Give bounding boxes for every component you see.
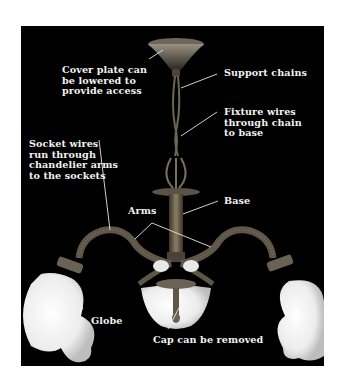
arms-label: Arms [128, 206, 156, 217]
support-chains-label: Support chains [224, 68, 307, 79]
support-chain-icon [166, 76, 185, 188]
cap-icon [172, 288, 180, 323]
right-globe-icon [266, 254, 324, 361]
cover-plate-label: Cover plate can be lowered to provide ac… [62, 65, 147, 97]
left-globe-icon [23, 256, 94, 362]
globe-label: Globe [91, 316, 123, 327]
socket-wires-label: Socket wires run through chandelier arms… [29, 139, 118, 181]
chandelier-diagram: Cover plate can be lowered to provide ac… [21, 26, 324, 366]
cap-label: Cap can be removed [153, 335, 263, 346]
fixture-wires-label: Fixture wires through chain to base [224, 107, 302, 139]
cover-plate-icon [148, 38, 204, 77]
base-label: Base [224, 196, 250, 207]
base-icon [152, 188, 200, 262]
